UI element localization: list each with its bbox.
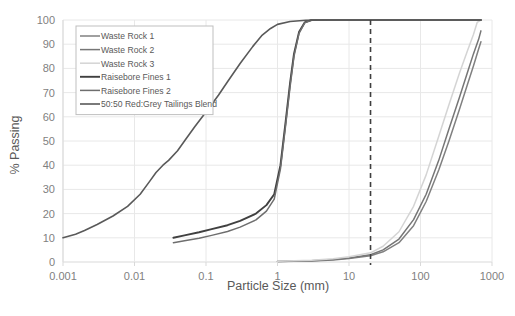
legend-label-5: 50:50 Red:Grey Tailings Blend — [101, 99, 217, 109]
legend-label-2: Waste Rock 3 — [101, 59, 154, 69]
x-tick-label: 0.001 — [49, 270, 77, 282]
y-tick-label: 40 — [43, 159, 55, 171]
legend-label-4: Raisebore Fines 2 — [101, 86, 171, 96]
legend-label-0: Waste Rock 1 — [101, 31, 154, 41]
series-line-1 — [278, 31, 481, 262]
x-tick-label: 100 — [411, 270, 429, 282]
x-tick-label: 1000 — [480, 270, 504, 282]
y-tick-label: 10 — [43, 232, 55, 244]
y-tick-label: 100 — [37, 14, 55, 26]
chart-canvas: 0102030405060708090100 0.0010.010.111010… — [0, 0, 515, 316]
series-line-4 — [173, 20, 481, 243]
y-axis-title: % Passing — [8, 115, 22, 174]
particle-size-distribution-chart: 0102030405060708090100 0.0010.010.111010… — [0, 0, 515, 316]
y-tick-label: 60 — [43, 111, 55, 123]
y-tick-label: 20 — [43, 208, 55, 220]
y-tick-label: 70 — [43, 87, 55, 99]
series-line-0 — [278, 42, 481, 262]
legend-label-3: Raisebore Fines 1 — [101, 72, 171, 82]
y-tick-label: 0 — [49, 256, 55, 268]
y-axis-tick-labels: 0102030405060708090100 — [37, 14, 55, 268]
x-axis-title: Particle Size (mm) — [227, 279, 329, 293]
y-tick-label: 90 — [43, 38, 55, 50]
y-tick-label: 30 — [43, 183, 55, 195]
x-tick-label: 0.1 — [198, 270, 213, 282]
x-tick-label: 10 — [343, 270, 355, 282]
x-tick-label: 0.01 — [124, 270, 145, 282]
y-tick-label: 50 — [43, 135, 55, 147]
series-line-3 — [173, 20, 481, 238]
legend-label-1: Waste Rock 2 — [101, 45, 154, 55]
chart-legend: Waste Rock 1Waste Rock 2Waste Rock 3Rais… — [76, 26, 217, 115]
y-tick-label: 80 — [43, 62, 55, 74]
